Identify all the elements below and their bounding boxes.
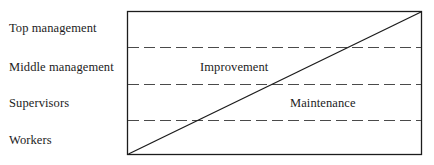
zone-label-maintenance: Maintenance [290,97,356,110]
zone-label-improvement: Improvement [200,61,268,74]
diagram-plot-area [0,0,434,165]
hierarchy-improvement-maintenance-diagram: Top management Middle management Supervi… [0,0,434,165]
